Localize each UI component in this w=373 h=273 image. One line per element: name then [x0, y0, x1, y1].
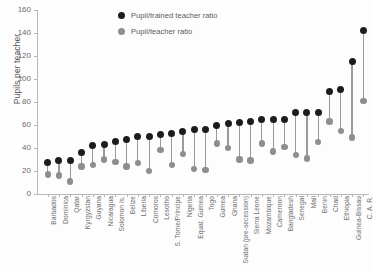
x-category-label: C. A. R. [366, 196, 373, 219]
x-axis-category-labels: BarbadosDominicaQatarKyrgyzstanGuyanaNic… [37, 196, 369, 272]
data-point-trained-teacher [157, 131, 164, 138]
data-point-trained-teacher [236, 119, 243, 126]
legend-swatch-icon [118, 28, 125, 35]
y-tick-label: 140 [3, 29, 31, 37]
x-category-label: Belize [129, 196, 136, 214]
legend-label: Pupil/trained teacher ratio [131, 11, 218, 20]
y-tick-label: 20 [3, 167, 31, 175]
x-category-label: Togo [208, 196, 215, 211]
data-point-trained-teacher [179, 128, 186, 135]
data-point-trained-teacher [134, 133, 141, 140]
chart-legend: Pupil/trained teacher ratioPupil/teacher… [118, 11, 218, 43]
y-tick-label: 160 [3, 6, 31, 14]
data-point-trained-teacher [112, 138, 119, 145]
x-category-label: Chad [332, 196, 339, 212]
data-point-trained-teacher [258, 116, 265, 123]
x-category-label: Liberia [140, 196, 147, 216]
data-point-trained-teacher [213, 122, 220, 129]
x-category-label: Kyrgyzstan [84, 196, 91, 229]
data-point-trained-teacher [360, 27, 367, 34]
x-category-label: Qatar [73, 196, 80, 213]
data-point-trained-teacher [146, 133, 153, 140]
data-point-trained-teacher [270, 116, 277, 123]
x-category-label: Dominica [62, 196, 69, 224]
x-category-label: Nigeria [186, 196, 193, 217]
x-category-label: Barbados [50, 196, 57, 225]
legend-label: Pupil/teacher ratio [131, 27, 192, 36]
x-category-label: Cameroon [276, 196, 283, 227]
x-category-label: Sierra Leone [253, 196, 260, 234]
x-category-label: Mali [310, 196, 317, 208]
x-category-label: Comoros [152, 196, 159, 223]
data-point-trained-teacher [55, 157, 62, 164]
data-point-trained-teacher [292, 109, 299, 116]
y-tick-label: 40 [3, 144, 31, 152]
x-category-label: Bangladesh [287, 196, 294, 231]
x-category-label: Mozambique [265, 196, 272, 234]
legend-swatch-icon [118, 12, 125, 19]
x-category-label: Ethiopia [343, 196, 350, 220]
x-category-label: Ghana [231, 196, 238, 216]
x-category-label: Senegal [298, 196, 305, 221]
x-category-label: Guinea-Bissau [355, 196, 362, 240]
data-point-trained-teacher [191, 126, 198, 133]
y-tick-label: 80 [3, 98, 31, 106]
x-category-label: Guinea [219, 196, 226, 218]
x-category-label: Lesotho [163, 196, 170, 220]
data-point-trained-teacher [67, 157, 74, 164]
x-category-label: Nicaragua [107, 196, 114, 227]
data-point-trained-teacher [326, 88, 333, 95]
y-tick-label: 120 [3, 52, 31, 60]
data-point-trained-teacher [123, 136, 130, 143]
x-category-label: Equat. Guinea [197, 196, 204, 239]
data-point-trained-teacher [281, 116, 288, 123]
y-tick-label: 100 [3, 75, 31, 83]
data-point-trained-teacher [349, 58, 356, 65]
data-point-trained-teacher [44, 159, 51, 166]
y-tick-label: 0 [3, 190, 31, 198]
data-point-trained-teacher [89, 142, 96, 149]
x-category-label: Sudan (pre-secession) [242, 196, 249, 263]
data-point-trained-teacher [168, 130, 175, 137]
y-tick-label: 60 [3, 121, 31, 129]
x-category-label: Benin [321, 196, 328, 213]
data-point-trained-teacher [101, 141, 108, 148]
legend-item[interactable]: Pupil/teacher ratio [118, 27, 218, 36]
legend-item[interactable]: Pupil/trained teacher ratio [118, 11, 218, 20]
x-category-label: S. Tome/Principe [174, 196, 181, 247]
data-point-trained-teacher [225, 120, 232, 127]
data-point-trained-teacher [315, 109, 322, 116]
x-category-label: Solomon Is. [118, 196, 125, 231]
data-point-trained-teacher [303, 109, 310, 116]
chart-container: Pupils per teacher 020406080100120140160… [0, 0, 373, 273]
data-point-trained-teacher [247, 118, 254, 125]
data-point-trained-teacher [78, 149, 85, 156]
y-tick-mark [34, 194, 37, 195]
data-point-trained-teacher [202, 126, 209, 133]
data-point-trained-teacher [337, 86, 344, 93]
x-category-label: Guyana [95, 196, 102, 219]
